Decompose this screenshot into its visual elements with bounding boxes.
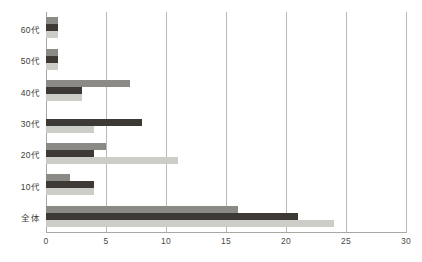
gridline-10 xyxy=(166,12,167,232)
x-tick-label: 10 xyxy=(161,236,171,246)
bar xyxy=(46,174,70,181)
x-tick-label: 15 xyxy=(221,236,231,246)
category-label: 50代 xyxy=(0,54,40,66)
bar xyxy=(46,150,94,157)
bar xyxy=(46,119,142,126)
gridline-15 xyxy=(226,12,227,232)
x-tick-label: 30 xyxy=(401,236,411,246)
category-label: 30代 xyxy=(0,117,40,129)
gridline-25 xyxy=(346,12,347,232)
bar xyxy=(46,24,58,31)
bar xyxy=(46,63,58,70)
bar xyxy=(46,126,94,133)
category-label: 10代 xyxy=(0,180,40,192)
category-label: 全体 xyxy=(0,211,40,223)
bar xyxy=(46,87,82,94)
x-tick-label: 0 xyxy=(44,236,49,246)
x-tick-label: 20 xyxy=(281,236,291,246)
bar xyxy=(46,181,94,188)
x-tick-label: 25 xyxy=(341,236,351,246)
gridline-30 xyxy=(406,12,407,232)
category-label: 40代 xyxy=(0,86,40,98)
bar xyxy=(46,31,58,38)
category-label: 60代 xyxy=(0,23,40,35)
plot-area xyxy=(46,12,406,232)
bar xyxy=(46,213,298,220)
bar-chart: 051015202530 60代50代40代30代20代10代全体 xyxy=(0,0,422,262)
x-axis-line xyxy=(46,232,407,233)
bar xyxy=(46,17,58,24)
bar xyxy=(46,80,130,87)
bar xyxy=(46,220,334,227)
bar xyxy=(46,94,82,101)
category-label: 20代 xyxy=(0,148,40,160)
gridline-20 xyxy=(286,12,287,232)
bar xyxy=(46,143,106,150)
bar xyxy=(46,157,178,164)
x-tick-label: 5 xyxy=(104,236,109,246)
bar xyxy=(46,206,238,213)
bar xyxy=(46,188,94,195)
bar xyxy=(46,49,58,56)
bar xyxy=(46,56,58,63)
